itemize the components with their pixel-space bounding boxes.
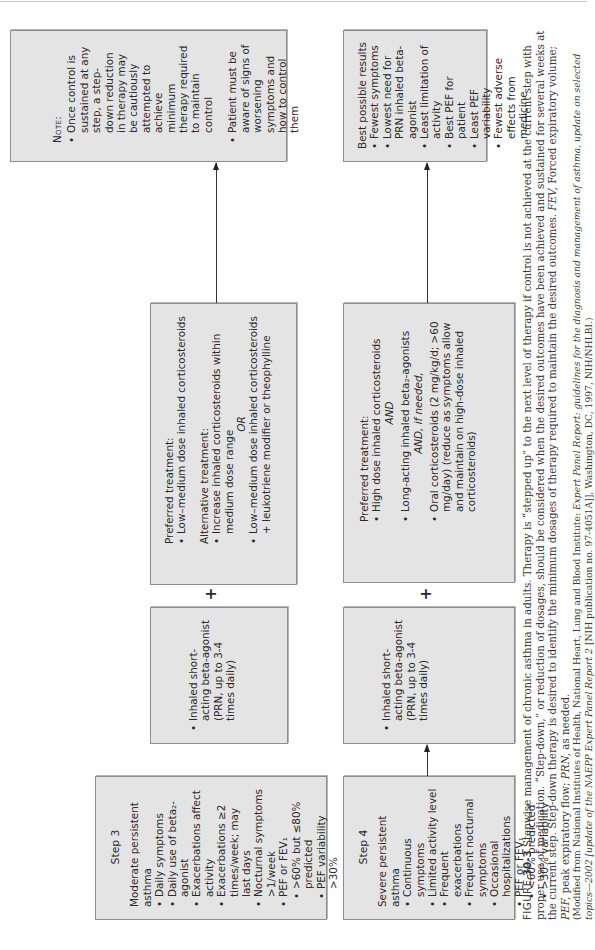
list-item: Exacerbations affect activity	[190, 787, 215, 907]
step4-title: Step 4	[358, 787, 370, 907]
list-item: High dose inhaled corticosteroids AND	[370, 314, 395, 522]
figure-source: (Modified from National Institutes of He…	[571, 30, 595, 920]
list-item: Inhaled short-acting beta-agonist (PRN, …	[187, 618, 237, 731]
step3-box: Step 3 Moderate persistent asthma Daily …	[95, 776, 327, 920]
list-item: Exacerbations ≥2 times/week; may last da…	[215, 787, 252, 907]
preferred-treatment-list: High dose inhaled corticosteroids AND Lo…	[370, 314, 477, 522]
abbr-prn: PRN,	[559, 753, 571, 779]
alternative-item-2: Low–medium dose inhaled corticosteroids	[247, 316, 259, 534]
step3-severity: Moderate persistent asthma	[128, 787, 153, 907]
arrow-to-note	[216, 163, 217, 303]
list-item: Once control is sustained at any step, a…	[65, 41, 214, 143]
note-box: Note: Once control is sustained at any s…	[10, 30, 287, 162]
preferred-treatment-list: Low–medium dose inhaled corticosteroids	[175, 314, 187, 544]
arrow-step4-to-saba	[427, 745, 428, 776]
step4-quick-relief-list: Inhaled short-acting beta-agonist (PRN, …	[380, 618, 430, 731]
best-results-heading: Best possible results	[356, 41, 368, 149]
caption-text: Forced expiratory volume;	[546, 46, 558, 187]
step4-treatment-box: Preferred treatment: High dose inhaled c…	[343, 303, 515, 583]
source-text: (Modified from National Institutes of He…	[571, 510, 582, 920]
list-item: Frequent nocturnal symptoms	[463, 787, 488, 907]
list-item: Least PEF variability	[468, 41, 493, 149]
treatment-item-1: High dose inhaled corticosteroids	[370, 339, 382, 512]
step3-sub-list: >60% but ≤80% predicted PEF variability …	[290, 787, 340, 907]
step3-treatment-box: Preferred treatment: Low–medium dose inh…	[150, 303, 297, 585]
caption-text: peak expiratory flow;	[559, 779, 571, 896]
step4-severity: Severe persistent asthma	[376, 787, 401, 907]
list-item: PEF variability >30%	[315, 787, 340, 899]
list-item: Frequent exacerbations	[438, 787, 463, 907]
list-item: Best PEF for patient	[443, 41, 468, 149]
figure-caption: FIGURE 30-3 Stepwise management of chron…	[521, 30, 595, 920]
preferred-treatment-label: Preferred treatment:	[163, 314, 175, 544]
step4-criteria-list: Continuous symptoms Limited activity lev…	[401, 787, 525, 907]
note-heading: Note:	[51, 41, 63, 143]
source-text: [NIH publication no. 97-4051A]], Washing…	[583, 317, 594, 648]
and-if-needed-label: AND, if needed,	[412, 314, 424, 512]
treatment-item-3: Oral corticosteroids (2 mg/kg/d; >60 mg/…	[428, 322, 477, 513]
preferred-treatment-label: Preferred treatment:	[358, 314, 370, 522]
figure-number: 30-3	[521, 850, 533, 876]
alternative-treatment-list: Increase inhaled corticosteroids within …	[210, 314, 272, 544]
list-item: >60% but ≤80% predicted	[290, 787, 315, 899]
list-item: Long-acting inhaled beta₂-agonists AND, …	[399, 314, 424, 522]
plus-icon: +	[204, 587, 219, 601]
list-item: Inhaled short-acting beta-agonist (PRN, …	[380, 618, 430, 731]
best-results-box: Best possible results Fewest symptoms Lo…	[343, 30, 487, 162]
step3-title: Step 3	[110, 787, 122, 907]
plus-icon: +	[419, 587, 434, 601]
alternative-item-1: Increase inhaled corticosteroids within …	[210, 334, 234, 534]
list-item: Fewest symptoms	[368, 41, 380, 149]
list-item: Patient must be aware of signs of worsen…	[226, 41, 300, 143]
list-item: Low–medium dose inhaled corticosteroids …	[247, 314, 272, 544]
caption-text: as needed.	[559, 694, 571, 753]
list-item: Daily use of beta₂-agonist	[166, 787, 191, 907]
list-item: Limited activity level	[426, 787, 438, 907]
best-results-list: Fewest symptoms Lowest need for PRN inha…	[368, 41, 529, 149]
alternative-item-2-addon: + leukotriene modifier or theophylline	[260, 335, 272, 534]
step4-box: Step 4 Severe persistent asthma Continuo…	[343, 776, 515, 920]
and-label: AND	[383, 314, 395, 512]
step3-quick-relief-list: Inhaled short-acting beta-agonist (PRN, …	[187, 618, 237, 731]
step3-criteria-list: Daily symptoms Daily use of beta₂-agonis…	[153, 787, 289, 907]
or-label: OR	[235, 314, 247, 534]
list-item: Occasional hospitalizations	[488, 787, 513, 907]
list-item: Low–medium dose inhaled corticosteroids	[175, 314, 187, 544]
list-item: Oral corticosteroids (2 mg/kg/d; >60 mg/…	[428, 314, 478, 522]
list-item: Lowest need for PRN inhaled beta-agonist	[381, 41, 418, 149]
step4-quick-relief-box: Inhaled short-acting beta-agonist (PRN, …	[343, 607, 515, 744]
treatment-item-2: Long-acting inhaled beta₂-agonists	[399, 331, 411, 512]
arrow-to-best-results	[427, 163, 428, 303]
list-item: Nocturnal symptoms >1/week	[252, 787, 277, 907]
alternative-treatment-label: Alternative treatment:	[198, 314, 210, 544]
note-list: Once control is sustained at any step, a…	[65, 41, 300, 143]
step3-quick-relief-box: Inhaled short-acting beta-agonist (PRN, …	[150, 607, 288, 744]
list-item: Daily symptoms	[153, 787, 165, 907]
list-item: Least limitation of activity	[418, 41, 443, 149]
list-item: Increase inhaled corticosteroids within …	[210, 314, 247, 544]
list-item: Continuous symptoms	[401, 787, 426, 907]
list-item: PEF or FEV₁	[277, 787, 289, 907]
abbr-pef: PEF,	[559, 897, 571, 920]
figure-label: FIGURE	[521, 879, 533, 920]
abbr-fev: FEV,	[546, 187, 558, 211]
